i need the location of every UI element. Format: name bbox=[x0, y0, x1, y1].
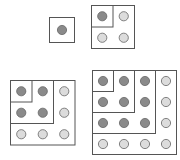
diagram-canvas bbox=[0, 0, 180, 160]
dark-dot bbox=[98, 76, 107, 85]
dark-dot bbox=[98, 97, 107, 106]
dark-dot bbox=[119, 118, 128, 127]
light-dot bbox=[140, 139, 149, 148]
dark-dot bbox=[38, 108, 47, 117]
dark-dot bbox=[98, 118, 107, 127]
light-dot bbox=[60, 108, 69, 117]
dark-dot bbox=[17, 87, 26, 96]
dark-dot bbox=[119, 76, 128, 85]
square-1-figure bbox=[50, 18, 75, 43]
light-dot bbox=[161, 118, 170, 127]
dark-dot bbox=[98, 12, 107, 21]
dark-dot bbox=[38, 87, 47, 96]
light-dot bbox=[38, 130, 47, 139]
square-3-figure bbox=[11, 81, 76, 146]
square-2-figure bbox=[92, 6, 135, 49]
light-dot bbox=[161, 76, 170, 85]
dark-dot bbox=[140, 118, 149, 127]
light-dot bbox=[98, 139, 107, 148]
dark-dot bbox=[119, 97, 128, 106]
light-dot bbox=[119, 12, 128, 21]
square-4-figure bbox=[93, 71, 177, 155]
light-dot bbox=[119, 33, 128, 42]
light-dot bbox=[98, 33, 107, 42]
light-dot bbox=[161, 139, 170, 148]
light-dot bbox=[17, 130, 26, 139]
dark-dot bbox=[57, 25, 66, 34]
dark-dot bbox=[140, 76, 149, 85]
dark-dot bbox=[140, 97, 149, 106]
light-dot bbox=[161, 97, 170, 106]
light-dot bbox=[60, 87, 69, 96]
light-dot bbox=[60, 130, 69, 139]
dark-dot bbox=[17, 108, 26, 117]
light-dot bbox=[119, 139, 128, 148]
